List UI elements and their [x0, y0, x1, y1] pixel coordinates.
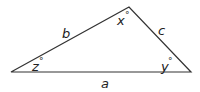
angle-x-degree: ° [125, 10, 130, 20]
triangle-diagram: b c a x ° y ° z ° [0, 0, 200, 92]
side-a-label: a [101, 76, 109, 91]
side-c-label: c [158, 23, 165, 38]
angle-y-degree: ° [168, 56, 173, 66]
angle-x-label: x [116, 13, 125, 28]
side-b-label: b [62, 26, 70, 41]
angle-z-degree: ° [39, 56, 44, 66]
